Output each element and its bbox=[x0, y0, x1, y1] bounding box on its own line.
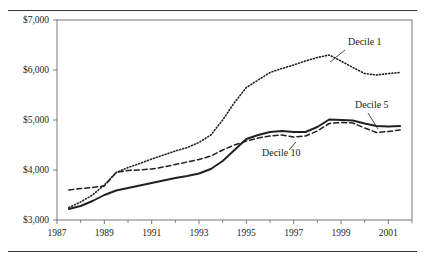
series-annotations: Decile 1Decile 5Decile 10 bbox=[262, 36, 389, 158]
x-axis-ticks bbox=[57, 220, 412, 224]
x-axis-tick-label: 2001 bbox=[379, 228, 398, 238]
y-axis-tick-label: $6,000 bbox=[23, 65, 49, 75]
data-series-group bbox=[69, 55, 400, 209]
y-axis-tick-label: $3,000 bbox=[23, 215, 49, 225]
x-axis-tick-label: 1989 bbox=[95, 228, 114, 238]
series-label-decile-10: Decile 10 bbox=[262, 147, 301, 158]
x-axis-tick-label: 1999 bbox=[332, 228, 351, 238]
x-axis-tick-label: 1995 bbox=[237, 228, 256, 238]
x-axis-tick-label: 1993 bbox=[190, 228, 209, 238]
x-axis-tick-labels: 19871989199119931995199719992001 bbox=[48, 228, 399, 238]
series-line-decile-10 bbox=[69, 123, 400, 191]
y-axis-tick-labels: $7,000$6,000$5,000$4,000$3,000 bbox=[23, 15, 49, 225]
x-axis-tick-label: 1997 bbox=[284, 228, 303, 238]
y-axis-tick-label: $5,000 bbox=[23, 115, 49, 125]
series-label-decile-1: Decile 1 bbox=[348, 36, 382, 47]
annotation-leader-line bbox=[368, 113, 378, 129]
y-axis-tick-label: $4,000 bbox=[23, 165, 49, 175]
y-axis-tick-label: $7,000 bbox=[23, 15, 49, 25]
series-line-decile-5 bbox=[69, 120, 400, 210]
figure-container: $7,000$6,000$5,000$4,000$3,000 198719891… bbox=[0, 0, 425, 263]
series-label-decile-5: Decile 5 bbox=[355, 99, 389, 110]
x-axis-tick-label: 1991 bbox=[142, 228, 161, 238]
line-chart: $7,000$6,000$5,000$4,000$3,000 198719891… bbox=[0, 0, 425, 263]
x-axis-tick-label: 1987 bbox=[48, 228, 67, 238]
series-line-decile-1 bbox=[69, 55, 400, 208]
y-axis-ticks bbox=[53, 20, 57, 220]
chart-plot-area: $7,000$6,000$5,000$4,000$3,000 198719891… bbox=[0, 0, 425, 263]
plot-frame bbox=[57, 20, 412, 220]
